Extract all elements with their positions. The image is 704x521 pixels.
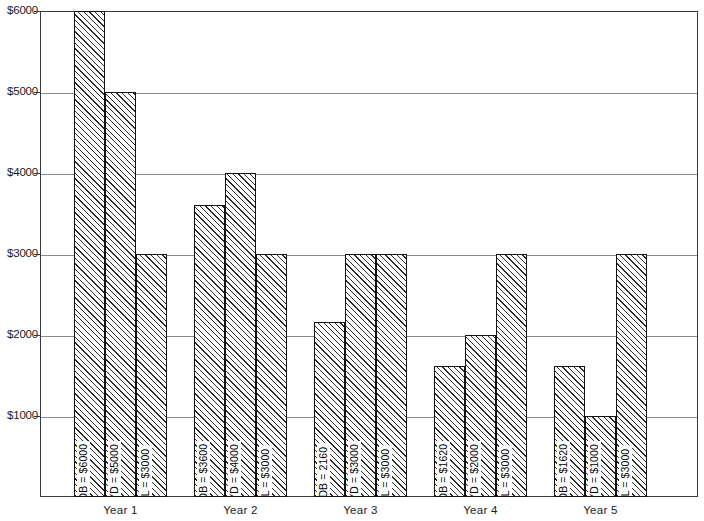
x-category-label-year-2: Year 2 xyxy=(196,504,286,516)
bar-syd-year-3[interactable]: SYD = $3000 xyxy=(345,254,376,497)
bar-sl-year-5[interactable]: SL = $3000 xyxy=(616,254,647,497)
y-tick-mark xyxy=(34,11,40,13)
y-tick-mark xyxy=(34,335,40,337)
bar-syd-year-2[interactable]: SYD = $4000 xyxy=(225,173,256,497)
bar-value-label: DDB = $6000 xyxy=(77,441,90,497)
gridline xyxy=(41,174,697,175)
bar-sl-year-4[interactable]: SL = $3000 xyxy=(496,254,527,497)
y-tick-mark xyxy=(34,92,40,94)
y-tick-mark xyxy=(34,173,40,175)
bar-value-label: SYD = $3000 xyxy=(348,441,361,497)
bar-ddb-year-4[interactable]: DDB = $1620 xyxy=(434,366,465,497)
bar-value-label: SL = $3000 xyxy=(379,446,392,497)
bar-syd-year-1[interactable]: SYD = $5000 xyxy=(105,92,136,497)
bar-value-label: DDB = 2160 xyxy=(317,444,330,497)
bar-value-label: SL = $3000 xyxy=(259,446,272,497)
bar-value-label: SL = $3000 xyxy=(499,446,512,497)
bar-ddb-year-3[interactable]: DDB = 2160 xyxy=(314,322,345,497)
x-category-label-year-1: Year 1 xyxy=(76,504,166,516)
depreciation-bar-chart: $1000$2000$3000$4000$5000$6000 DDB = $60… xyxy=(0,0,704,521)
bar-value-label: SL = $3000 xyxy=(139,446,152,497)
bar-value-label: SYD = $4000 xyxy=(228,441,241,497)
bar-value-label: SL = $3000 xyxy=(619,446,632,497)
bar-value-label: DDB = $1620 xyxy=(437,441,450,497)
gridline xyxy=(41,93,697,94)
bar-ddb-year-2[interactable]: DDB = $3600 xyxy=(194,205,225,497)
y-tick-mark xyxy=(34,254,40,256)
bar-value-label: DDB = $1620 xyxy=(557,441,570,497)
bar-ddb-year-5[interactable]: DDB = $1620 xyxy=(554,366,585,497)
x-category-label-year-3: Year 3 xyxy=(316,504,406,516)
bar-value-label: SYD = $2000 xyxy=(468,441,481,497)
bar-ddb-year-1[interactable]: DDB = $6000 xyxy=(74,11,105,497)
bar-syd-year-4[interactable]: SYD = $2000 xyxy=(465,335,496,497)
bar-value-label: DDB = $3600 xyxy=(197,441,210,497)
bar-value-label: SYD = $5000 xyxy=(108,441,121,497)
bar-sl-year-2[interactable]: SL = $3000 xyxy=(256,254,287,497)
bar-value-label: SYD = $1000 xyxy=(588,441,601,497)
bar-syd-year-5[interactable]: SYD = $1000 xyxy=(585,416,616,497)
x-category-label-year-5: Year 5 xyxy=(556,504,646,516)
y-tick-mark xyxy=(34,416,40,418)
bar-sl-year-3[interactable]: SL = $3000 xyxy=(376,254,407,497)
bar-sl-year-1[interactable]: SL = $3000 xyxy=(136,254,167,497)
x-category-label-year-4: Year 4 xyxy=(436,504,526,516)
